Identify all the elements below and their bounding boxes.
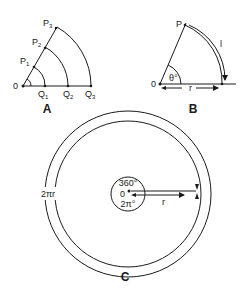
origin-label-a: 0 [13, 81, 18, 91]
p3-label: P3 [43, 18, 53, 29]
angle-mark-a [27, 79, 31, 86]
center-dot [128, 190, 131, 193]
arc-q2-p2 [45, 47, 68, 86]
radius-arrowhead-c [131, 193, 136, 197]
arc-length-arrow [189, 25, 225, 80]
ray-a [23, 27, 57, 86]
p1-label: P1 [20, 56, 30, 67]
panel-b: 0 P θ° l r B [151, 19, 236, 116]
q3-dot [90, 85, 93, 88]
outer-circle [45, 111, 211, 277]
p1-dot [33, 66, 36, 69]
radius-arrowhead-left [161, 86, 166, 90]
radius-label-b: r [189, 83, 192, 93]
degrees-label: 360° [119, 178, 138, 188]
q2-dot [67, 85, 70, 88]
panel-a: 0 P1 P2 P3 Q1 Q2 Q3 A [13, 18, 96, 116]
caption-a: A [43, 102, 52, 116]
q1-label: Q1 [38, 89, 49, 100]
p2-label: P2 [32, 37, 42, 48]
p2-dot [44, 47, 47, 50]
arc-q1-p1 [34, 67, 45, 86]
radian-diagram: 0 P1 P2 P3 Q1 Q2 Q3 A 0 P θ° l r B [0, 0, 249, 292]
origin-dot-b [159, 83, 162, 86]
p3-dot [55, 27, 58, 30]
circ-arrowhead-down [195, 184, 199, 190]
radians-label: 2π° [121, 199, 136, 209]
origin-label-b: 0 [151, 79, 156, 89]
q3-label: Q3 [85, 89, 96, 100]
circ-arrowhead-up [195, 193, 199, 199]
radius-label-c: r [162, 197, 165, 207]
arc-length-label: l [220, 39, 222, 49]
center-label: 0 [120, 189, 125, 199]
caption-b: B [189, 102, 198, 116]
p-dot-b [184, 24, 187, 27]
panel-c: 360° 0 2π° 2πr r C [40, 111, 211, 284]
arc-end-dot-b [221, 83, 224, 86]
arc-q3-p3 [57, 27, 91, 86]
angle-label: θ° [169, 73, 178, 83]
caption-c: C [121, 270, 130, 284]
q2-label: Q2 [63, 89, 74, 100]
middle-circle [55, 121, 201, 267]
origin-dot-a [22, 85, 25, 88]
q1-dot [44, 85, 47, 88]
circumference-label: 2πr [41, 189, 55, 199]
p-label-b: P [176, 19, 182, 29]
